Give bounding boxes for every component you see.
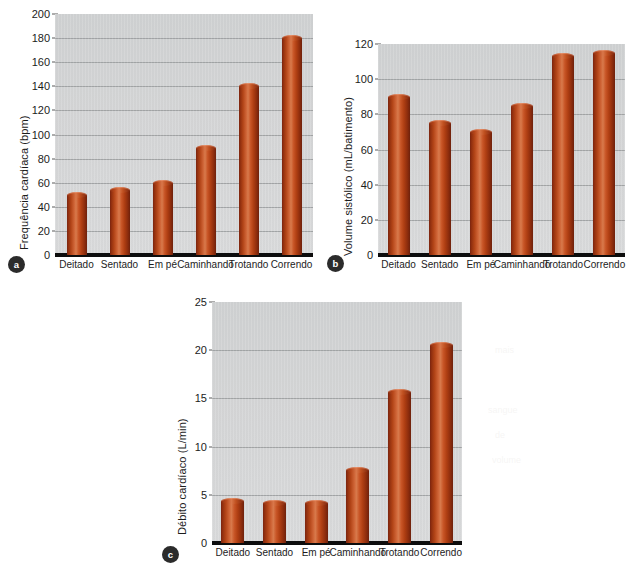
gridline (378, 114, 625, 115)
y-axis-tick-label: 80 (0, 153, 50, 165)
x-axis-tick-label: Sentado (256, 547, 293, 558)
plot-area-b (378, 44, 625, 255)
gridline (55, 38, 313, 39)
x-axis-tick-label: Em pé (466, 259, 495, 270)
plot-area-c (212, 302, 462, 543)
y-axis-tick-label: 40 (320, 179, 373, 191)
bar-top-cap (388, 94, 410, 100)
y-axis-tick-label: 0 (320, 249, 373, 261)
bar (346, 470, 369, 543)
y-axis-tick-label: 60 (0, 177, 50, 189)
bar (430, 345, 453, 543)
y-axis-title-b: Volume sistólico (mL/batimento) (342, 97, 354, 256)
scan-bleed-artifact: volume (492, 455, 521, 465)
bar (470, 132, 492, 255)
gridline (212, 350, 462, 351)
bar-top-cap (110, 187, 130, 193)
bar-top-cap (430, 342, 453, 348)
plot-area-a (55, 14, 313, 255)
y-axis-tick-label: 25 (150, 296, 207, 308)
gridline (55, 86, 313, 87)
x-axis-tick-label: Sentado (421, 259, 458, 270)
bar-top-cap (221, 498, 244, 504)
bar (388, 97, 410, 255)
x-axis-tick-label: Deitado (381, 259, 415, 270)
y-axis-tick-label: 200 (0, 8, 50, 20)
y-axis-tick-label: 100 (0, 129, 50, 141)
y-axis-tick-label: 20 (150, 344, 207, 356)
chart-panel-b: b Volume sistólico (mL/batimento) 020406… (320, 0, 641, 290)
bar (429, 123, 451, 255)
bar (221, 501, 244, 543)
x-axis-tick-label: Em pé (302, 547, 331, 558)
bar-top-cap (429, 120, 451, 126)
x-axis-tick-label: Caminhando (177, 259, 234, 270)
bar-top-cap (388, 389, 411, 395)
x-axis-tick-label: Trotando (229, 259, 269, 270)
y-axis-tick-label: 10 (150, 441, 207, 453)
x-axis-line-a (55, 253, 313, 257)
y-axis-tick-label: 20 (320, 214, 373, 226)
gridline (378, 79, 625, 80)
bar-top-cap (593, 50, 615, 56)
gridline (212, 495, 462, 496)
bar (593, 53, 615, 255)
y-axis-tick-label: 15 (150, 392, 207, 404)
bar-top-cap (67, 192, 87, 198)
y-axis-tick-label: 100 (320, 73, 373, 85)
x-axis-tick-label: Sentado (101, 259, 138, 270)
chart-panel-a: a Frequência cardíaca (bpm) 020406080100… (0, 0, 320, 290)
bar-top-cap (282, 35, 302, 41)
bar-top-cap (153, 180, 173, 186)
scan-bleed-artifact: de (495, 430, 505, 440)
x-axis-line-c (212, 541, 462, 545)
x-axis-tick-label: Deitado (216, 547, 250, 558)
bar-top-cap (305, 500, 328, 506)
bar (67, 195, 87, 255)
x-axis-tick-label: Correndo (584, 259, 626, 270)
x-axis-tick-label: Trotando (543, 259, 583, 270)
x-axis-tick-label: Trotando (380, 547, 420, 558)
y-axis-tick-label: 0 (0, 249, 50, 261)
gridline (378, 220, 625, 221)
x-axis-tick-label: Caminhando (494, 259, 551, 270)
y-axis-tick-label: 120 (0, 104, 50, 116)
bar (282, 38, 302, 255)
scan-bleed-artifact: sangue (488, 405, 518, 415)
bar-top-cap (346, 467, 369, 473)
scan-bleed-artifact: mais (495, 345, 514, 355)
gridline (55, 110, 313, 111)
y-axis-tick-label: 20 (0, 225, 50, 237)
chart-panel-c: c Débito cardíaco (L/min) 0510152025 Dei… (150, 290, 490, 579)
gridline (55, 231, 313, 232)
gridline (212, 447, 462, 448)
bar-top-cap (196, 145, 216, 151)
bar-top-cap (263, 500, 286, 506)
y-axis-title-c: Débito cardíaco (L/min) (176, 418, 188, 535)
bar-top-cap (470, 129, 492, 135)
y-axis-tick-label: 0 (150, 537, 207, 549)
bar (511, 106, 533, 255)
x-axis-tick-label: Em pé (148, 259, 177, 270)
y-axis-tick-label: 140 (0, 80, 50, 92)
bar (388, 392, 411, 543)
y-axis-tick-label: 5 (150, 489, 207, 501)
bar (552, 56, 574, 255)
gridline (55, 159, 313, 160)
bar (196, 148, 216, 255)
bar-top-cap (511, 103, 533, 109)
x-axis-tick-label: Correndo (420, 547, 462, 558)
bar-top-cap (552, 53, 574, 59)
bar (305, 503, 328, 543)
gridline (55, 207, 313, 208)
y-axis-tick-label: 120 (320, 38, 373, 50)
bar (263, 503, 286, 543)
x-axis-line-b (378, 253, 625, 257)
gridline (55, 135, 313, 136)
y-axis-tick-label: 160 (0, 56, 50, 68)
bar (110, 190, 130, 255)
y-axis-tick-label: 80 (320, 108, 373, 120)
bar-top-cap (239, 83, 259, 89)
x-axis-tick-label: Correndo (271, 259, 313, 270)
y-axis-tick-label: 180 (0, 32, 50, 44)
